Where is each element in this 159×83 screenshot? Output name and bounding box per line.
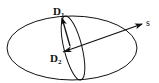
label-d1: D1 xyxy=(53,5,65,19)
label-d2: D2 xyxy=(50,52,62,66)
vector-d1-arrow xyxy=(62,18,70,46)
vector-s-arrow xyxy=(63,24,142,52)
label-s: s xyxy=(146,17,150,28)
diagram-canvas: D1 D2 s xyxy=(0,0,159,83)
